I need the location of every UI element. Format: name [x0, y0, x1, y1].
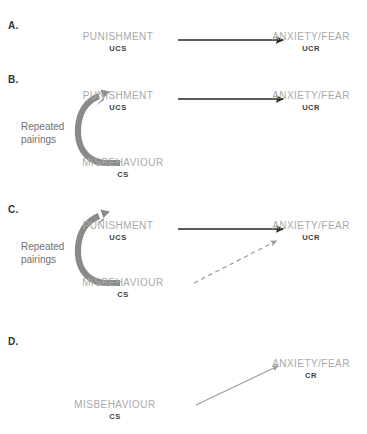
panel-letter-a: A. — [8, 20, 18, 31]
panel-b-cs-label: MISBEHAVIOUR — [53, 157, 193, 168]
panel-c-pairings-line2: pairings — [21, 253, 64, 266]
panel-a-ucs-label: PUNISHMENT — [53, 31, 183, 42]
panel-letter-b: B. — [8, 74, 18, 85]
panel-c-cs-label: MISBEHAVIOUR — [53, 277, 193, 288]
panel-c-cs-sublabel: CS — [53, 290, 193, 299]
panel-b-ucs-label: PUNISHMENT — [53, 90, 183, 101]
panel-c-ucs-label: PUNISHMENT — [53, 220, 183, 231]
classical-conditioning-diagram: A. PUNISHMENT UCS ANXIETY/FEAR UCR B. Re… — [0, 0, 367, 434]
panel-b-ucs-sublabel: UCS — [53, 103, 183, 112]
panel-d-cr-label: ANXIETY/FEAR — [256, 358, 366, 369]
panel-b-pairings-line1: Repeated — [21, 120, 64, 133]
panel-b-repeated-pairings-label: Repeated pairings — [21, 120, 64, 146]
panel-letter-d: D. — [8, 336, 18, 347]
panel-a-ucs-sublabel: UCS — [53, 44, 183, 53]
panel-c-ucr-label: ANXIETY/FEAR — [256, 220, 366, 231]
panel-a-ucr-sublabel: UCR — [256, 44, 366, 53]
panel-c-ucs-sublabel: UCS — [53, 233, 183, 242]
panel-b-pairings-line2: pairings — [21, 133, 64, 146]
panel-d-cr-sublabel: CR — [256, 371, 366, 380]
panel-b-ucr-sublabel: UCR — [256, 103, 366, 112]
panel-c-ucr-sublabel: UCR — [256, 233, 366, 242]
panel-d-cs-label: MISBEHAVIOUR — [45, 399, 185, 410]
panel-c-repeated-pairings-label: Repeated pairings — [21, 240, 64, 266]
panel-d-cs-sublabel: CS — [45, 412, 185, 421]
panel-b-ucr-label: ANXIETY/FEAR — [256, 90, 366, 101]
panel-b-cs-sublabel: CS — [53, 170, 193, 179]
arrow-c-cs-to-ucr-dashed — [194, 241, 276, 283]
panel-letter-c: C. — [8, 204, 18, 215]
panel-a-ucr-label: ANXIETY/FEAR — [256, 31, 366, 42]
